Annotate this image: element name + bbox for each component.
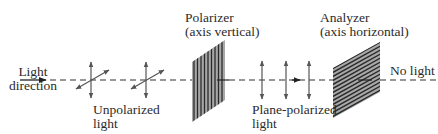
- plane-polarized-label-line2: light: [252, 117, 337, 131]
- polarizer-filter: [192, 30, 229, 130]
- analyzer-label: Analyzer (axis horizontal): [320, 11, 409, 39]
- unpolarized-light-label: Unpolarized light: [93, 103, 160, 131]
- unpolarized-label-line2: light: [93, 117, 160, 131]
- light-direction-label-line2: direction: [8, 79, 58, 93]
- analyzer-label-line1: Analyzer: [320, 11, 409, 25]
- light-direction-label-line1: Light: [8, 65, 58, 79]
- unpolarized-label-line1: Unpolarized: [93, 103, 160, 117]
- analyzer-filter: [330, 32, 384, 122]
- analyzer-label-line2: (axis horizontal): [320, 25, 409, 39]
- plane-polarized-label-line1: Plane-polarized: [252, 103, 337, 117]
- no-light-label: No light: [390, 64, 435, 78]
- light-direction-label: Light direction: [8, 65, 58, 93]
- polarizer-label-line1: Polarizer: [185, 11, 260, 25]
- plane-polarized-light-label: Plane-polarized light: [252, 103, 337, 131]
- polarizer-label-line2: (axis vertical): [185, 25, 260, 39]
- polarizer-label: Polarizer (axis vertical): [185, 11, 260, 39]
